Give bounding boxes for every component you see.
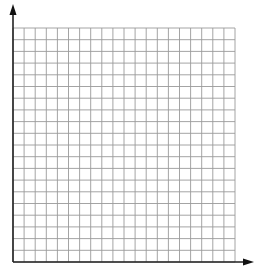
coordinate-grid (0, 0, 262, 270)
x-axis-arrow-icon (243, 259, 254, 266)
grid-lines (13, 28, 235, 262)
y-axis-arrow-icon (10, 4, 17, 15)
